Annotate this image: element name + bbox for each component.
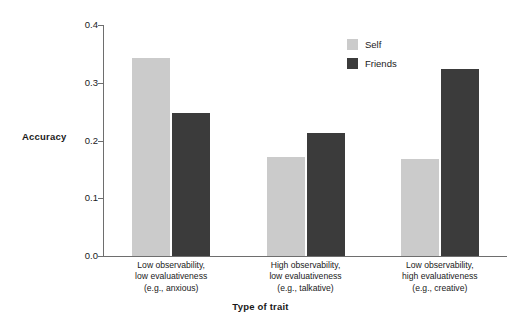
- y-axis-tick: [98, 256, 103, 257]
- bar-friends-group-1: [172, 113, 210, 256]
- legend-label: Friends: [365, 58, 397, 69]
- bar-self-group-1: [132, 58, 170, 256]
- bar-chart-figure: Accuracy 0.00.10.20.30.4 SelfFriends Low…: [0, 0, 521, 325]
- y-axis-tick-label: 0.2: [68, 135, 98, 147]
- category-label-2: High observability,low evaluativeness(e.…: [238, 260, 372, 294]
- legend-item-friends[interactable]: Friends: [347, 56, 397, 71]
- x-axis-category-labels: Low observability,low evaluativeness(e.g…: [104, 260, 507, 300]
- legend-swatch-icon: [347, 39, 358, 50]
- y-axis-tick: [98, 198, 103, 199]
- category-label-1: Low observability,low evaluativeness(e.g…: [104, 260, 238, 294]
- y-axis-tick: [98, 83, 103, 84]
- x-axis-title: Type of trait: [0, 301, 521, 312]
- legend-item-self[interactable]: Self: [347, 37, 397, 52]
- category-label-line: Low observability,: [373, 260, 507, 271]
- bar-friends-group-3: [441, 69, 479, 256]
- y-axis-tick: [98, 141, 103, 142]
- legend: SelfFriends: [347, 37, 397, 75]
- category-label-line: (e.g., creative): [373, 283, 507, 294]
- y-axis-tick-label: 0.4: [68, 19, 98, 31]
- category-label-line: Low observability,: [104, 260, 238, 271]
- x-axis-line: [103, 256, 507, 257]
- legend-swatch-icon: [347, 58, 358, 69]
- category-label-line: low evaluativeness: [104, 271, 238, 282]
- y-axis-tick-label: 0.3: [68, 77, 98, 89]
- y-axis-tick-label-text: 0.1: [74, 192, 98, 203]
- category-label-line: high evaluativeness: [373, 271, 507, 282]
- category-label-line: (e.g., anxious): [104, 283, 238, 294]
- plot-area: [104, 25, 507, 256]
- y-axis-tick-label-text: 0.4: [74, 19, 98, 30]
- y-axis-tick-label-text: 0.0: [74, 250, 98, 261]
- y-axis-tick-label-text: 0.3: [74, 77, 98, 88]
- category-label-line: (e.g., talkative): [238, 283, 372, 294]
- bar-self-group-3: [401, 159, 439, 256]
- y-axis-tick-label: 0.1: [68, 192, 98, 204]
- y-axis-tick-label: 0.0: [68, 250, 98, 262]
- y-axis-tick: [98, 25, 103, 26]
- category-label-3: Low observability,high evaluativeness(e.…: [373, 260, 507, 294]
- bar-self-group-2: [267, 157, 305, 256]
- legend-label: Self: [365, 39, 381, 50]
- y-axis-tick-label-text: 0.2: [74, 135, 98, 146]
- category-label-line: High observability,: [238, 260, 372, 271]
- y-axis-title: Accuracy: [22, 131, 66, 142]
- bar-friends-group-2: [307, 133, 345, 256]
- category-label-line: low evaluativeness: [238, 271, 372, 282]
